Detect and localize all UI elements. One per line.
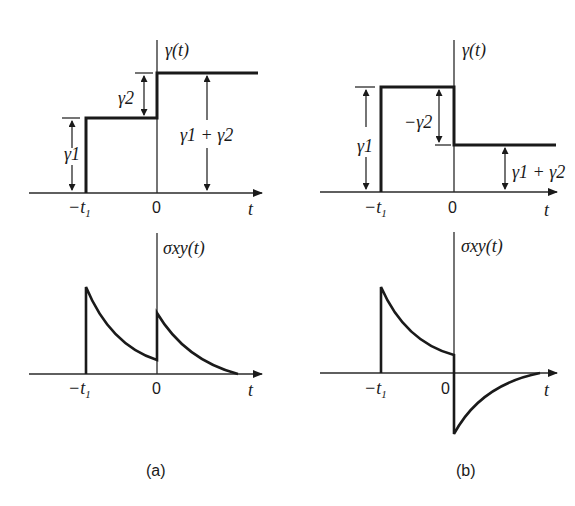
annotation-gamma1-plus-gamma2: γ1 + γ2: [180, 125, 233, 145]
x-axis-label: t: [248, 380, 254, 400]
annotation-gamma1: γ1: [357, 136, 373, 156]
stress-response-curve: [381, 287, 540, 434]
y-axis-label: γ(t): [165, 40, 189, 61]
y-axis-label: σxy(t): [461, 236, 503, 257]
stress-response-curve: [86, 287, 238, 374]
tick-zero: 0: [152, 199, 161, 216]
tick-zero: 0: [448, 199, 457, 216]
x-axis-label: t: [248, 199, 254, 219]
annotation-gamma1: γ1: [64, 144, 80, 164]
y-axis-label: γ(t): [462, 40, 486, 61]
tick-minus-t1: −t1: [364, 197, 387, 219]
annotation-minus-gamma2: −γ2: [404, 112, 432, 132]
annotation-gamma1-plus-gamma2: γ1 + γ2: [512, 162, 565, 182]
panel-a-strain-plot: γ(t) γ2 γ1 γ1 + γ2 −t1 0 t: [29, 40, 262, 219]
y-axis-label: σxy(t): [163, 238, 205, 259]
tick-minus-t1: −t1: [68, 197, 91, 219]
tick-minus-t1: −t1: [68, 378, 91, 400]
x-axis-label: t: [544, 380, 550, 400]
tick-minus-t1: −t1: [364, 378, 387, 400]
tick-zero: 0: [441, 380, 450, 397]
annotation-gamma2: γ2: [118, 88, 134, 108]
panel-b-stress-plot: σxy(t) −t1 0 t (b): [320, 232, 557, 479]
x-axis-label: t: [544, 200, 550, 220]
caption-b: (b): [456, 462, 476, 479]
figure-canvas: γ(t) γ2 γ1 γ1 + γ2 −t1 0 t γ(t) −γ2 γ1 γ…: [0, 0, 575, 506]
panel-a-stress-plot: σxy(t) −t1 0 t (a): [29, 233, 262, 479]
tick-zero: 0: [152, 380, 161, 397]
caption-a: (a): [146, 462, 166, 479]
panel-b-strain-plot: γ(t) −γ2 γ1 γ1 + γ2 −t1 0 t: [320, 40, 565, 220]
